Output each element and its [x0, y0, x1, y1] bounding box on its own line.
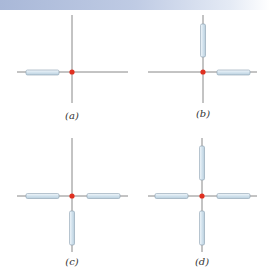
charge-point [200, 69, 205, 74]
panel-label-a: (a) [65, 110, 79, 121]
charge-point [69, 193, 74, 198]
panel-a [17, 15, 128, 103]
rod-right [87, 194, 120, 199]
rod-left [26, 70, 59, 75]
rod-diagrams [0, 0, 270, 274]
panel-d [148, 138, 257, 252]
rod-right [217, 70, 250, 75]
panel-b [148, 15, 257, 103]
charge-point [69, 69, 74, 74]
panel-c [17, 138, 128, 252]
rod-left [26, 194, 59, 199]
rod-up [200, 146, 205, 180]
rod-up [201, 24, 206, 57]
rod-down [70, 211, 75, 245]
panel-label-b: (b) [196, 108, 210, 119]
rod-left [155, 194, 188, 199]
panel-label-c: (c) [65, 256, 78, 267]
rod-down [200, 211, 205, 245]
rod-right [217, 194, 250, 199]
panel-label-d: (d) [195, 256, 209, 267]
charge-point [199, 193, 204, 198]
